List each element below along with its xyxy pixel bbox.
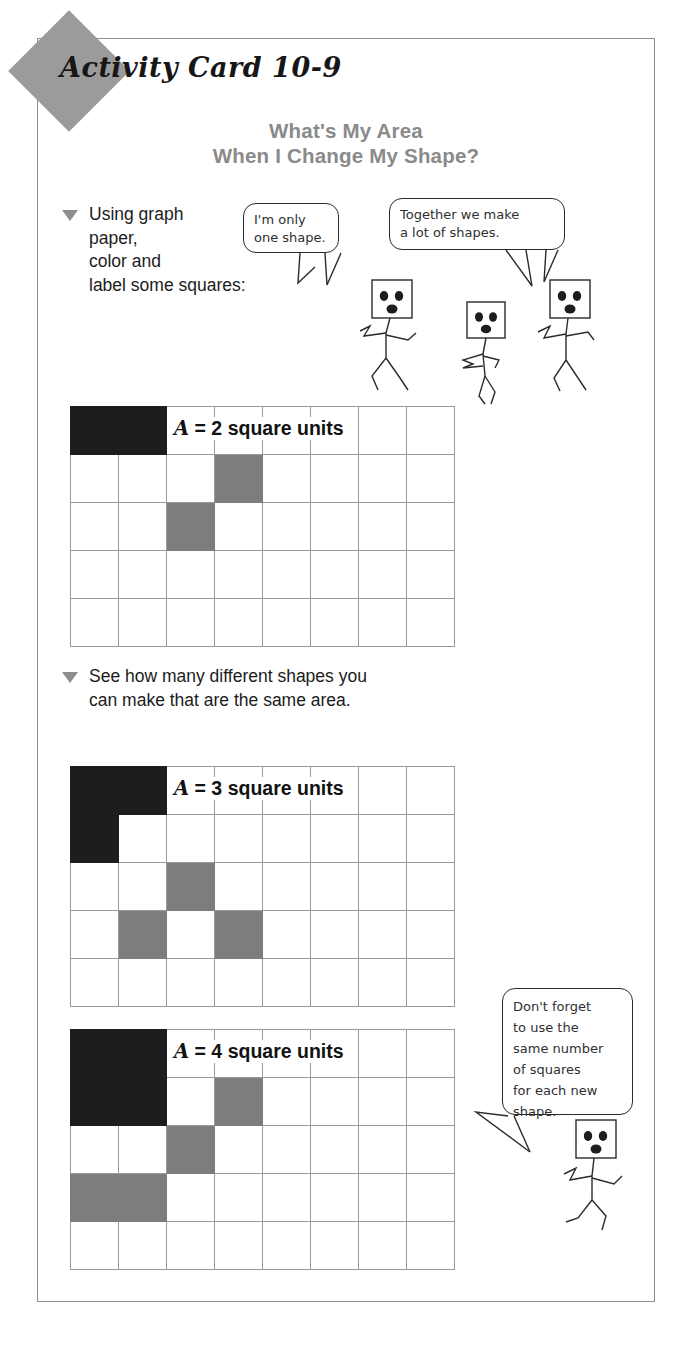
grid-cell[interactable] — [71, 1030, 119, 1078]
grid-cell[interactable] — [119, 911, 167, 959]
grid-cell[interactable] — [215, 863, 263, 911]
grid-cell[interactable] — [263, 503, 311, 551]
grid-cell[interactable] — [215, 503, 263, 551]
grid-cell[interactable] — [71, 1126, 119, 1174]
grid-cell[interactable] — [215, 959, 263, 1007]
grid-cell[interactable] — [359, 455, 407, 503]
grid-cell[interactable] — [71, 503, 119, 551]
grid-cell[interactable] — [407, 1030, 455, 1078]
grid-cell[interactable] — [263, 455, 311, 503]
grid-cell[interactable] — [407, 767, 455, 815]
grid-cell[interactable] — [71, 863, 119, 911]
grid-cell[interactable] — [359, 959, 407, 1007]
grid-cell[interactable] — [71, 599, 119, 647]
grid-cell[interactable] — [71, 1174, 119, 1222]
grid-cell[interactable] — [167, 911, 215, 959]
grid-cell[interactable] — [311, 503, 359, 551]
grid-cell[interactable] — [119, 1030, 167, 1078]
grid-cell[interactable] — [407, 407, 455, 455]
grid-cell[interactable] — [71, 815, 119, 863]
grid-cell[interactable] — [215, 815, 263, 863]
grid-cell[interactable] — [407, 1222, 455, 1270]
grid-cell[interactable] — [71, 551, 119, 599]
grid-cell[interactable] — [215, 455, 263, 503]
grid-cell[interactable] — [359, 767, 407, 815]
grid-cell[interactable] — [407, 503, 455, 551]
grid-cell[interactable] — [119, 959, 167, 1007]
grid-cell[interactable] — [263, 815, 311, 863]
grid-cell[interactable] — [407, 1078, 455, 1126]
grid-cell[interactable] — [407, 1126, 455, 1174]
grid-cell[interactable] — [263, 959, 311, 1007]
grid-cell[interactable] — [359, 551, 407, 599]
grid-cell[interactable] — [407, 1174, 455, 1222]
grid-cell[interactable] — [215, 1126, 263, 1174]
grid-cell[interactable] — [119, 815, 167, 863]
grid-cell[interactable] — [359, 503, 407, 551]
grid-cell[interactable] — [71, 911, 119, 959]
grid-cell[interactable] — [407, 455, 455, 503]
grid-cell[interactable] — [71, 1222, 119, 1270]
grid-cell[interactable] — [359, 1030, 407, 1078]
grid-cell[interactable] — [359, 911, 407, 959]
grid-cell[interactable] — [311, 1174, 359, 1222]
grid-cell[interactable] — [311, 1222, 359, 1270]
grid-cell[interactable] — [407, 815, 455, 863]
grid-cell[interactable] — [167, 959, 215, 1007]
grid-cell[interactable] — [311, 815, 359, 863]
grid-cell[interactable] — [167, 455, 215, 503]
grid-cell[interactable] — [263, 1222, 311, 1270]
grid-cell[interactable] — [119, 1174, 167, 1222]
grid-cell[interactable] — [119, 407, 167, 455]
grid-cell[interactable] — [311, 959, 359, 1007]
grid-cell[interactable] — [407, 551, 455, 599]
grid-cell[interactable] — [167, 1078, 215, 1126]
grid-cell[interactable] — [407, 863, 455, 911]
grid-cell[interactable] — [71, 455, 119, 503]
grid-cell[interactable] — [215, 1174, 263, 1222]
grid-cell[interactable] — [167, 599, 215, 647]
grid-cell[interactable] — [359, 815, 407, 863]
grid-cell[interactable] — [311, 455, 359, 503]
grid-cell[interactable] — [71, 407, 119, 455]
grid-cell[interactable] — [119, 551, 167, 599]
grid-cell[interactable] — [311, 911, 359, 959]
grid-cell[interactable] — [167, 863, 215, 911]
grid-cell[interactable] — [359, 407, 407, 455]
grid-cell[interactable] — [119, 1078, 167, 1126]
grid-cell[interactable] — [263, 1078, 311, 1126]
grid-cell[interactable] — [119, 863, 167, 911]
grid-cell[interactable] — [311, 551, 359, 599]
grid-cell[interactable] — [359, 863, 407, 911]
grid-cell[interactable] — [407, 959, 455, 1007]
grid-cell[interactable] — [71, 959, 119, 1007]
grid-cell[interactable] — [119, 767, 167, 815]
grid-cell[interactable] — [215, 551, 263, 599]
grid-cell[interactable] — [311, 1078, 359, 1126]
grid-cell[interactable] — [311, 863, 359, 911]
grid-cell[interactable] — [263, 911, 311, 959]
grid-cell[interactable] — [359, 1222, 407, 1270]
grid-cell[interactable] — [359, 1174, 407, 1222]
grid-cell[interactable] — [263, 863, 311, 911]
grid-cell[interactable] — [119, 1222, 167, 1270]
grid-cell[interactable] — [407, 911, 455, 959]
grid-cell[interactable] — [359, 1078, 407, 1126]
grid-cell[interactable] — [407, 599, 455, 647]
grid-cell[interactable] — [119, 455, 167, 503]
grid-cell[interactable] — [215, 1222, 263, 1270]
grid-cell[interactable] — [167, 1174, 215, 1222]
grid-cell[interactable] — [167, 551, 215, 599]
grid-cell[interactable] — [359, 599, 407, 647]
grid-cell[interactable] — [167, 503, 215, 551]
grid-cell[interactable] — [263, 1174, 311, 1222]
grid-cell[interactable] — [359, 1126, 407, 1174]
grid-cell[interactable] — [263, 1126, 311, 1174]
grid-cell[interactable] — [167, 1222, 215, 1270]
grid-cell[interactable] — [215, 1078, 263, 1126]
grid-cell[interactable] — [119, 599, 167, 647]
grid-cell[interactable] — [311, 599, 359, 647]
grid-cell[interactable] — [263, 551, 311, 599]
grid-cell[interactable] — [263, 599, 311, 647]
grid-cell[interactable] — [71, 1078, 119, 1126]
